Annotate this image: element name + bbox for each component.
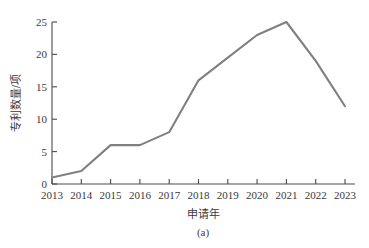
- x-tick-label-2017: 2017: [158, 189, 181, 201]
- y-tick-label-15: 15: [36, 81, 48, 93]
- x-tick-label-2013: 2013: [41, 189, 64, 201]
- data-series-line: [52, 22, 345, 178]
- x-axis-ticks: [52, 179, 345, 184]
- x-tick-label-2020: 2020: [246, 189, 269, 201]
- x-axis-tick-labels: 2013201420152016201720182019202020212022…: [41, 189, 357, 201]
- x-tick-label-2022: 2022: [305, 189, 327, 201]
- x-tick-label-2014: 2014: [70, 189, 93, 201]
- chart-figure: 0 5 10 15 20 25 201320142015201620172018…: [0, 0, 369, 248]
- x-tick-label-2019: 2019: [217, 189, 240, 201]
- x-axis-title: 申请年: [187, 207, 220, 220]
- x-tick-label-2023: 2023: [334, 189, 357, 201]
- x-tick-label-2016: 2016: [129, 189, 152, 201]
- x-tick-label-2015: 2015: [100, 189, 123, 201]
- y-tick-label-25: 25: [36, 16, 48, 28]
- x-tick-label-2021: 2021: [275, 189, 297, 201]
- figure-caption: (a): [197, 226, 210, 239]
- y-tick-label-20: 20: [36, 48, 48, 60]
- y-tick-label-10: 10: [36, 113, 48, 125]
- y-axis-tick-labels: 0 5 10 15 20 25: [36, 16, 48, 190]
- x-tick-label-2018: 2018: [188, 189, 211, 201]
- y-tick-label-5: 5: [42, 146, 48, 158]
- y-axis-title: 专利数量/项: [9, 74, 22, 132]
- y-axis-ticks: [52, 22, 57, 184]
- line-chart: 0 5 10 15 20 25 201320142015201620172018…: [0, 0, 369, 248]
